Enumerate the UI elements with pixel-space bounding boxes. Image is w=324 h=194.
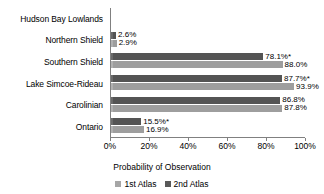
bar-value-label: 93.9% xyxy=(294,83,319,91)
category-label: Lake Simcoe-Rideau xyxy=(0,73,107,95)
legend-swatch-icon xyxy=(165,181,171,187)
legend-label: 1st Atlas xyxy=(124,180,156,189)
legend-label: 2nd Atlas xyxy=(174,180,209,189)
bar-row: 93.9% xyxy=(111,83,319,90)
x-axis-tick-label: 20% xyxy=(140,142,157,151)
bar-chart: Hudson Bay Lowlands Northern Shield Sout… xyxy=(0,0,324,194)
x-axis-tick-label: 100% xyxy=(294,142,316,151)
bar-value-label: 88.0% xyxy=(283,61,308,69)
bar-row: 87.8% xyxy=(111,105,307,112)
bar-group: 87.7%*93.9% xyxy=(111,73,305,95)
bar-group: 86.8%87.8% xyxy=(111,95,305,117)
bar-row: 87.7%* xyxy=(111,75,310,82)
bar-row: 78.1%* xyxy=(111,53,291,60)
bar-second xyxy=(111,75,282,82)
bar-row: 88.0% xyxy=(111,61,307,68)
x-axis-tick-label: 60% xyxy=(218,142,235,151)
bar-first xyxy=(111,126,144,133)
bar-row: 86.8% xyxy=(111,97,305,104)
bar-row: 2.9% xyxy=(111,40,137,47)
bar-second xyxy=(111,97,280,104)
x-axis-tick-label: 0% xyxy=(104,142,116,151)
bar-value-label: 2.9% xyxy=(117,39,137,47)
category-label: Northern Shield xyxy=(0,30,107,52)
bar-second xyxy=(111,118,141,125)
bar-second xyxy=(111,53,263,60)
category-label: Carolinian xyxy=(0,95,107,117)
bar-first xyxy=(111,83,294,90)
category-label: Ontario xyxy=(0,116,107,138)
bar-value-label: 16.9% xyxy=(144,126,169,134)
x-axis-tick-label: 40% xyxy=(179,142,196,151)
bar-group: 78.1%*88.0% xyxy=(111,51,305,73)
category-label: Hudson Bay Lowlands xyxy=(0,8,107,30)
bar-group: 15.5%*16.9% xyxy=(111,116,305,138)
plot-area: 2.6%2.9%78.1%*88.0%87.7%*93.9%86.8%87.8%… xyxy=(110,8,305,138)
category-axis-labels: Hudson Bay Lowlands Northern Shield Sout… xyxy=(0,8,107,138)
x-axis-tick-labels: 0%20%40%60%80%100% xyxy=(110,142,305,154)
bar-row: 16.9% xyxy=(111,126,169,133)
chart-legend: 1st Atlas 2nd Atlas xyxy=(0,180,324,189)
bar-group xyxy=(111,8,305,30)
legend-item-first-atlas: 1st Atlas xyxy=(115,180,156,189)
bar-group: 2.6%2.9% xyxy=(111,30,305,52)
category-label: Southern Shield xyxy=(0,51,107,73)
bar-first xyxy=(111,61,283,68)
legend-swatch-icon xyxy=(115,181,121,187)
bar-first xyxy=(111,105,282,112)
bar-value-label: 87.8% xyxy=(282,104,307,112)
x-axis-title: Probability of Observation xyxy=(0,163,324,172)
legend-item-second-atlas: 2nd Atlas xyxy=(165,180,209,189)
x-axis-tick-label: 80% xyxy=(257,142,274,151)
